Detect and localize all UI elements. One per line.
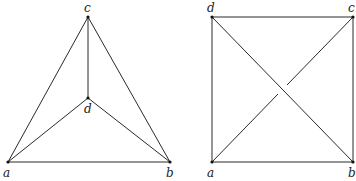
vertex-a (6, 160, 9, 163)
vertex-d (86, 96, 89, 99)
label-b: b (348, 166, 356, 180)
vertex-c (351, 15, 354, 18)
vertex-b (168, 160, 171, 163)
edge-b-d (88, 98, 170, 162)
label-d: d (84, 102, 92, 116)
label-c: c (84, 1, 91, 15)
right-graph: a b c d (207, 1, 356, 180)
edge-b-c (88, 17, 170, 162)
vertex-c (86, 15, 89, 18)
label-b: b (166, 166, 174, 180)
graph-diagram: a b c d a b c d (0, 0, 356, 181)
edge-a-c-lower (212, 94, 278, 162)
label-c: c (348, 1, 355, 15)
vertex-b (351, 160, 354, 163)
label-a: a (207, 166, 214, 180)
label-d: d (207, 1, 215, 15)
edge-a-d (8, 98, 88, 162)
edge-a-c-upper (287, 17, 353, 85)
vertex-d (210, 15, 213, 18)
vertex-a (210, 160, 213, 163)
edge-a-c (8, 17, 88, 162)
label-a: a (3, 166, 10, 180)
left-graph: a b c d (3, 1, 174, 180)
